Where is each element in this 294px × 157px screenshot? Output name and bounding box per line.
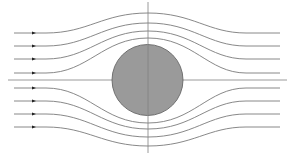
flow-diagram [0, 0, 294, 157]
cylinder [112, 45, 183, 116]
